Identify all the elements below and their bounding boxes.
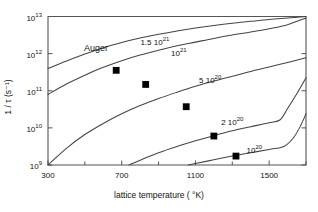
curve-label-0: 1.5 1021 — [140, 38, 169, 47]
curve-label-2: 5 1020 — [199, 76, 221, 85]
y-tick-label-1: 1010 — [14, 124, 42, 133]
axis-ticks — [48, 17, 306, 166]
data-marker — [113, 67, 120, 74]
x-axis-title: lattice temperature ( °K) — [0, 190, 318, 200]
curve-label-1: 1021 — [171, 49, 187, 58]
y-tick-label-4: 1013 — [14, 13, 42, 22]
data-marker — [233, 153, 240, 160]
x-tick-label-3: 1500 — [260, 171, 278, 180]
data-marker — [142, 81, 149, 88]
y-tick-label-0: 109 — [14, 162, 42, 171]
y-tick-label-3: 1012 — [14, 50, 42, 59]
curve-3 — [129, 78, 306, 165]
data-marker — [183, 103, 190, 110]
x-tick-label-0: 300 — [41, 171, 54, 180]
curve-label-3: 2 1020 — [221, 118, 243, 127]
x-tick-label-2: 1100 — [187, 171, 204, 180]
chart-plot-area — [0, 0, 318, 212]
y-tick-label-2: 1011 — [14, 87, 42, 96]
curve-4 — [188, 114, 306, 165]
auger-annotation-label: Auger — [84, 43, 108, 53]
curve-label-4: 1020 — [247, 146, 263, 155]
data-marker — [210, 133, 217, 140]
x-tick-label-1: 700 — [115, 171, 128, 180]
y-axis-title: 1 / τ (s⁻¹) — [3, 65, 13, 129]
auger-recombination-chart: 1091010101110121013 30070011001500 1.5 1… — [0, 0, 318, 212]
data-curves — [48, 17, 306, 166]
plot-frame — [48, 17, 306, 166]
